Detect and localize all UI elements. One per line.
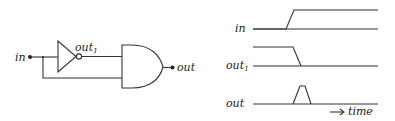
in-waveform [253,10,378,29]
time-axis-label: time [348,105,373,118]
inverter-gate-icon [58,41,76,72]
output-terminal-dot [171,66,175,70]
and-gate-icon [122,45,163,88]
circuit: in out1 out [15,41,196,88]
inverter-bubble-icon [76,54,81,59]
circuit-output-label: out [177,61,196,74]
inverter-output-label: out1 [75,41,98,55]
diagram-canvas: in out1 out in out1 out time [0,0,395,121]
out-glitch-pulse [293,86,311,104]
feedforward-wire [43,57,122,78]
timing-label-out: out [226,97,245,110]
timing-diagram: in out1 out time [226,10,378,118]
timing-label-in: in [235,22,246,35]
circuit-input-label: in [15,51,26,64]
timing-label-out1: out1 [226,59,249,73]
out1-waveform [253,47,301,66]
